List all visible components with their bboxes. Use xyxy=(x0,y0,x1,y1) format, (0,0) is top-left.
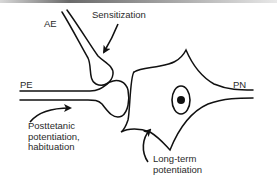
long-term-label: Long-term potentiation xyxy=(153,154,202,175)
pe-label: PE xyxy=(20,80,33,91)
pn-label: PN xyxy=(233,80,246,91)
pn-nucleus xyxy=(172,86,190,114)
pe-axon xyxy=(20,80,129,117)
posttetanic-label: Posttetanic potentiation, habituation xyxy=(28,121,80,153)
ae-label: AE xyxy=(44,19,57,30)
pn-cell-body xyxy=(121,50,253,150)
sensitization-arrow xyxy=(104,24,118,52)
long-term-arrow xyxy=(143,130,150,162)
ae-axon xyxy=(62,10,113,85)
sensitization-label: Sensitization xyxy=(92,10,146,21)
